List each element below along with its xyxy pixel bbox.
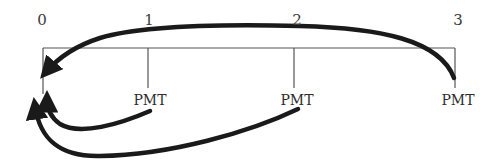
period-label-1: 1 — [144, 13, 154, 28]
timeline-graphic — [0, 0, 501, 164]
arrow-period-2-to-0 — [35, 106, 298, 156]
cash-flow-timeline-diagram: 0 1 2 3 PMT PMT PMT — [0, 0, 501, 164]
payment-label-period-1: PMT — [133, 93, 166, 107]
timeline-axis — [43, 48, 455, 94]
period-label-3: 3 — [453, 13, 463, 28]
period-label-0: 0 — [37, 13, 47, 28]
period-label-2: 2 — [292, 13, 302, 28]
arrow-period-3-to-0 — [46, 25, 454, 78]
payment-label-period-3: PMT — [441, 93, 474, 107]
payment-label-period-2: PMT — [280, 93, 313, 107]
